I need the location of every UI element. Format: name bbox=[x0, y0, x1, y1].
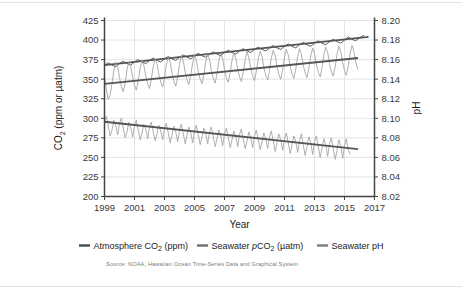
y-axis-tick-label: 350 bbox=[83, 74, 99, 85]
y-axis-tick-label: 300 bbox=[83, 113, 99, 124]
series-trendline bbox=[105, 122, 359, 149]
y-axis-tick-label: 425 bbox=[83, 15, 99, 26]
y-axis-tick-label: 400 bbox=[83, 34, 99, 45]
chart-figure: 2002252502753003253503754004258.028.048.… bbox=[0, 0, 462, 297]
y2-axis-tick-label: 8.12 bbox=[382, 93, 401, 104]
legend-label: Seawater pH bbox=[332, 241, 384, 251]
y2-axis-tick-label: 8.08 bbox=[382, 132, 401, 143]
y2-axis-tick-label: 8.04 bbox=[382, 171, 401, 182]
x-axis-tick-label: 2007 bbox=[214, 202, 235, 213]
source-text: NOAA, Hawaiian Ocean Time-Series Data an… bbox=[126, 261, 298, 267]
y-axis-tick-label: 275 bbox=[83, 132, 99, 143]
x-axis-tick-label: 2017 bbox=[364, 202, 385, 213]
series-wiggle bbox=[105, 46, 359, 100]
x-axis-tick-label: 2011 bbox=[274, 202, 294, 213]
source-note: Source: NOAA, Hawaiian Ocean Time-Series… bbox=[106, 261, 298, 267]
legend-label: Seawater pCO2 (µatm) bbox=[212, 241, 304, 252]
gridlines bbox=[105, 21, 375, 197]
x-axis-tick-label: 2003 bbox=[154, 202, 175, 213]
x-axis-tick-label: 2009 bbox=[244, 202, 265, 213]
y2-axis-tick-label: 8.18 bbox=[382, 34, 401, 45]
y-axis-title: CO2 (ppm or µatm) bbox=[53, 66, 66, 151]
y2-axis-tick-label: 8.02 bbox=[382, 191, 401, 202]
y2-axis-tick-label: 8.16 bbox=[382, 54, 401, 65]
x-axis-tick-label: 2001 bbox=[124, 202, 145, 213]
data-series-layer bbox=[105, 35, 369, 159]
source-prefix: Source: bbox=[106, 261, 126, 267]
x-axis-tick-label: 1999 bbox=[94, 202, 115, 213]
axes-layer bbox=[101, 18, 378, 201]
y2-axis-title: pH bbox=[411, 102, 422, 115]
legend-label: Atmosphere CO2 (ppm) bbox=[94, 241, 188, 252]
y-axis-tick-label: 200 bbox=[83, 191, 99, 202]
y-axis-tick-label: 325 bbox=[83, 93, 99, 104]
tick-labels-layer: 2002252502753003253503754004258.028.048.… bbox=[83, 15, 400, 213]
x-axis-title: Year bbox=[229, 219, 250, 230]
y2-axis-tick-label: 8.06 bbox=[382, 152, 401, 163]
chart-legend: Atmosphere CO2 (ppm)Seawater pCO2 (µatm)… bbox=[79, 241, 384, 252]
x-axis-tick-label: 2015 bbox=[334, 202, 355, 213]
chart-plot-area: 2002252502753003253503754004258.028.048.… bbox=[0, 0, 462, 297]
y-axis-tick-label: 250 bbox=[83, 152, 99, 163]
y2-axis-tick-label: 8.10 bbox=[382, 113, 401, 124]
x-axis-tick-label: 2005 bbox=[184, 202, 205, 213]
x-axis-tick-label: 2013 bbox=[304, 202, 325, 213]
y2-axis-tick-label: 8.20 bbox=[382, 15, 401, 26]
y-axis-tick-label: 375 bbox=[83, 54, 99, 65]
y-axis-tick-label: 225 bbox=[83, 171, 99, 182]
y2-axis-tick-label: 8.14 bbox=[382, 74, 401, 85]
